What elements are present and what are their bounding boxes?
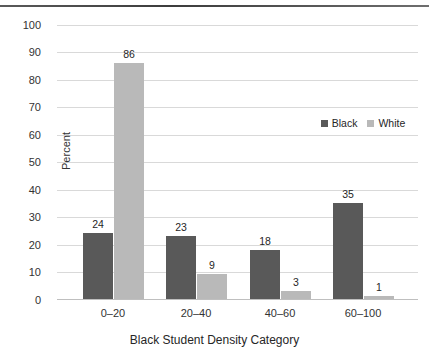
legend-label-black: Black (332, 118, 358, 129)
legend-swatch-black-icon (321, 120, 328, 127)
y-tick-label-100: 100 (1, 20, 41, 31)
x-tick-label-20-40: 20–40 (151, 307, 241, 319)
chart-legend: Black White (311, 113, 415, 133)
bar-label-black-20-40: 23 (156, 222, 206, 233)
x-tick-label-40-60: 40–60 (235, 307, 325, 319)
y-tick-label-60: 60 (1, 130, 41, 141)
legend-label-white: White (378, 118, 405, 129)
y-tick-label-80: 80 (1, 75, 41, 86)
bar-label-white-0-20: 86 (104, 49, 154, 60)
gridline-80 (57, 80, 418, 81)
gridline-30 (57, 217, 418, 218)
bar-white-20-40 (197, 274, 227, 299)
bar-white-60-100 (364, 296, 394, 299)
bar-label-black-40-60: 18 (240, 236, 290, 247)
plot-area: 100 90 80 70 60 50 40 30 20 10 0 Percent… (57, 25, 418, 300)
y-tick-label-0: 0 (1, 295, 41, 306)
legend-entry-black: Black (321, 118, 358, 129)
axis-baseline (57, 299, 418, 300)
gridline-50 (57, 162, 418, 163)
y-tick-label-50: 50 (1, 157, 41, 168)
bar-label-white-40-60: 3 (271, 277, 321, 288)
y-tick-label-20: 20 (1, 240, 41, 251)
gridline-100 (57, 25, 418, 26)
bar-label-white-20-40: 9 (187, 260, 237, 271)
y-axis-title: Percent (60, 106, 72, 196)
bar-black-0-20 (83, 233, 113, 299)
x-axis-title: Black Student Density Category (0, 333, 429, 347)
bar-white-40-60 (281, 291, 311, 299)
bar-white-0-20 (114, 63, 144, 299)
gridline-70 (57, 107, 418, 108)
bar-label-white-60-100: 1 (354, 282, 404, 293)
y-tick-label-70: 70 (1, 102, 41, 113)
legend-entry-white: White (367, 118, 405, 129)
bar-chart: 100 90 80 70 60 50 40 30 20 10 0 Percent… (0, 0, 429, 356)
bar-black-40-60 (250, 250, 280, 299)
x-tick-label-60-100: 60–100 (318, 307, 408, 319)
bar-label-black-60-100: 35 (323, 189, 373, 200)
gridline-60 (57, 135, 418, 136)
legend-swatch-white-icon (367, 120, 374, 127)
page-top-rule (0, 5, 429, 7)
y-tick-label-30: 30 (1, 212, 41, 223)
y-tick-label-40: 40 (1, 185, 41, 196)
y-tick-label-10: 10 (1, 267, 41, 278)
x-tick-label-0-20: 0–20 (68, 307, 158, 319)
y-tick-label-90: 90 (1, 47, 41, 58)
